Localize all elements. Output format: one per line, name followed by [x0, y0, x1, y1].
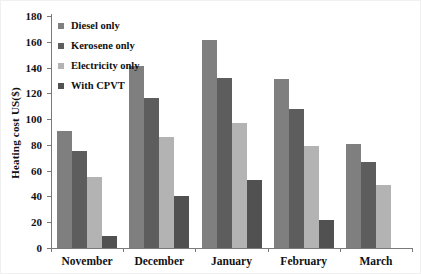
bar-electricity-only-december: [159, 137, 174, 248]
y-tick-label: 40: [16, 189, 42, 203]
legend-marker-icon: [58, 23, 64, 29]
bar-electricity-only-november: [87, 177, 102, 248]
bar-kerosene-only-march: [361, 162, 376, 248]
bar-kerosene-only-december: [144, 98, 159, 248]
bar-with-cpvt-february: [319, 220, 334, 248]
x-category-label-december: December: [123, 254, 195, 268]
legend-marker-icon: [58, 43, 64, 49]
legend-marker-icon: [58, 63, 64, 69]
bar-diesel-only-march: [346, 144, 361, 248]
y-tick: [47, 222, 51, 223]
bar-kerosene-only-february: [289, 109, 304, 248]
bar-electricity-only-march: [376, 185, 391, 248]
y-tick: [47, 171, 51, 172]
x-tick: [195, 248, 196, 252]
chart-figure: Heating cost US($) 020406080100120140160…: [0, 0, 421, 274]
legend-label: Electricity only: [71, 60, 140, 71]
bar-kerosene-only-november: [72, 151, 87, 248]
y-tick-label: 80: [16, 138, 42, 152]
bar-with-cpvt-november: [102, 236, 117, 248]
x-tick: [268, 248, 269, 252]
y-tick-label: 60: [16, 164, 42, 178]
bar-with-cpvt-january: [247, 180, 262, 248]
y-tick: [47, 119, 51, 120]
legend-label: Kerosene only: [71, 40, 135, 51]
x-tick: [51, 248, 52, 252]
legend-marker-icon: [58, 83, 64, 89]
x-tick: [412, 248, 413, 252]
legend-label: With CPVT: [71, 80, 125, 91]
bar-with-cpvt-december: [174, 196, 189, 248]
legend-item-with-cpvt: With CPVT: [58, 80, 140, 91]
legend-item-diesel-only: Diesel only: [58, 20, 140, 31]
bar-kerosene-only-january: [217, 78, 232, 248]
bar-diesel-only-february: [274, 79, 289, 248]
bar-diesel-only-november: [57, 131, 72, 248]
legend-item-kerosene-only: Kerosene only: [58, 40, 140, 51]
y-tick: [47, 93, 51, 94]
x-category-label-january: January: [195, 254, 267, 268]
y-tick: [47, 42, 51, 43]
y-tick: [47, 16, 51, 17]
x-axis-line: [51, 248, 413, 249]
x-tick: [340, 248, 341, 252]
legend-item-electricity-only: Electricity only: [58, 60, 140, 71]
y-tick-label: 20: [16, 215, 42, 229]
y-tick-label: 140: [16, 61, 42, 75]
bar-diesel-only-january: [202, 40, 217, 248]
y-tick-label: 160: [16, 35, 42, 49]
y-axis-line: [51, 14, 52, 248]
y-tick: [47, 68, 51, 69]
bar-electricity-only-february: [304, 146, 319, 248]
bar-electricity-only-january: [232, 123, 247, 248]
y-tick: [47, 145, 51, 146]
y-tick-label: 120: [16, 86, 42, 100]
legend-label: Diesel only: [71, 20, 120, 31]
y-tick: [47, 196, 51, 197]
x-tick: [123, 248, 124, 252]
x-category-label-march: March: [340, 254, 412, 268]
x-category-label-november: November: [51, 254, 123, 268]
y-tick-label: 180: [16, 9, 42, 23]
y-tick-label: 100: [16, 112, 42, 126]
y-tick-label: 0: [16, 241, 42, 255]
x-category-label-february: February: [268, 254, 340, 268]
legend: Diesel onlyKerosene onlyElectricity only…: [58, 20, 140, 100]
